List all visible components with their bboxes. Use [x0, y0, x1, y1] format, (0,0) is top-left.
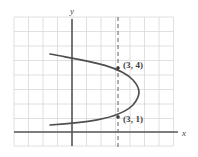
- x-axis-label: x: [182, 129, 186, 138]
- point-label-upper: (3, 4): [123, 61, 143, 70]
- coordinate-plane-svg: [0, 0, 198, 157]
- grid-lines: [14, 17, 174, 146]
- y-axis-label: y: [70, 7, 74, 16]
- point-marker-upper: [116, 66, 120, 70]
- graph-figure: y x (3, 4) (3, 1): [0, 0, 198, 157]
- point-marker-lower: [116, 115, 120, 119]
- point-label-lower: (3, 1): [123, 115, 143, 124]
